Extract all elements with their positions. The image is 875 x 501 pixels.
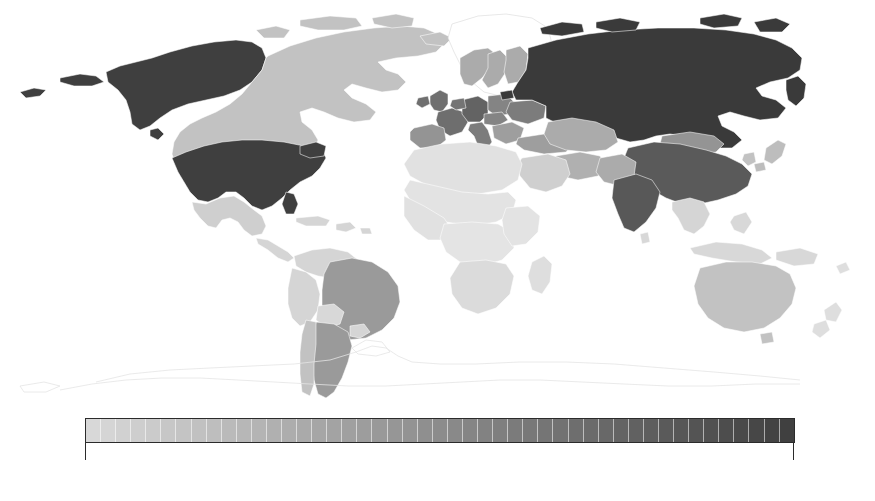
region-united-kingdom [430, 90, 448, 112]
colorbar-segment [252, 419, 267, 442]
colorbar-segment [192, 419, 207, 442]
region-caribbean [296, 216, 372, 234]
colorbar-segment [418, 419, 433, 442]
colorbar-segment [357, 419, 372, 442]
colorbar-segment [101, 419, 116, 442]
colorbar-segment [176, 419, 191, 442]
colorbar-segment [312, 419, 327, 442]
colorbar-segment [297, 419, 312, 442]
region-pacific-islands [836, 262, 850, 274]
world-map-svg [0, 0, 875, 400]
colorbar-segment [222, 419, 237, 442]
colorbar-tick-min [85, 442, 86, 460]
colorbar-segment [237, 419, 252, 442]
colorbar-segment [553, 419, 568, 442]
colorbar-segment [372, 419, 387, 442]
colorbar-container [85, 418, 795, 443]
region-antarctica [20, 340, 800, 392]
colorbar-segment [478, 419, 493, 442]
colorbar-segment [584, 419, 599, 442]
colorbar-segment [267, 419, 282, 442]
region-japan-south [754, 162, 766, 172]
colorbar-segment [493, 419, 508, 442]
region-ireland [416, 96, 430, 108]
region-central-america [256, 238, 294, 262]
region-saudi-arabia [516, 154, 570, 192]
region-new-guinea [776, 248, 818, 266]
region-chile [300, 320, 316, 396]
colorbar-segment [780, 419, 794, 442]
colorbar-segment [704, 419, 719, 442]
colorbar-segment [569, 419, 584, 442]
colorbar-segment [448, 419, 463, 442]
colorbar-segment [161, 419, 176, 442]
region-indonesia [690, 242, 772, 264]
colorbar-segment [765, 419, 780, 442]
colorbar-segment [599, 419, 614, 442]
region-sri-lanka [640, 232, 650, 244]
colorbar-segment [629, 419, 644, 442]
colorbar-segment [282, 419, 297, 442]
region-east-africa [502, 206, 540, 246]
colorbar-segment [538, 419, 553, 442]
region-central-africa [440, 222, 514, 266]
region-southeast-asia [672, 198, 710, 234]
region-australia [694, 262, 796, 332]
choropleth-figure: 0 251 [0, 0, 875, 501]
colorbar-segment [403, 419, 418, 442]
region-japan [764, 140, 786, 164]
region-southern-africa [450, 260, 514, 314]
colorbar-segment [463, 419, 478, 442]
region-kamchatka [786, 76, 806, 106]
region-india [612, 174, 660, 232]
colorbar-segment [116, 419, 131, 442]
region-philippines [730, 212, 752, 234]
colorbar-segment [689, 419, 704, 442]
colorbar-segment [207, 419, 222, 442]
colorbar-segment [523, 419, 538, 442]
region-new-zealand-south [812, 320, 830, 338]
colorbar-gradient[interactable] [85, 418, 795, 443]
colorbar-segment [734, 419, 749, 442]
region-peru-ecuador [288, 268, 320, 326]
colorbar-segment [433, 419, 448, 442]
colorbar-segment [327, 419, 342, 442]
colorbar-segment [674, 419, 689, 442]
colorbar-segment [86, 419, 101, 442]
colorbar-segment [614, 419, 629, 442]
colorbar-segment [388, 419, 403, 442]
colorbar-segment [644, 419, 659, 442]
world-map [0, 0, 875, 400]
region-new-zealand [824, 302, 842, 322]
colorbar-segment [719, 419, 734, 442]
colorbar-segment [659, 419, 674, 442]
colorbar-legend: 0 251 [0, 400, 875, 501]
colorbar-segment [749, 419, 764, 442]
region-kaliningrad [500, 90, 514, 100]
colorbar-tick-max [793, 442, 794, 460]
region-argentina [312, 322, 352, 398]
region-tasmania [760, 332, 774, 344]
region-madagascar [528, 256, 552, 294]
colorbar-segment [342, 419, 357, 442]
colorbar-segment [131, 419, 146, 442]
colorbar-segment [146, 419, 161, 442]
colorbar-segment [508, 419, 523, 442]
